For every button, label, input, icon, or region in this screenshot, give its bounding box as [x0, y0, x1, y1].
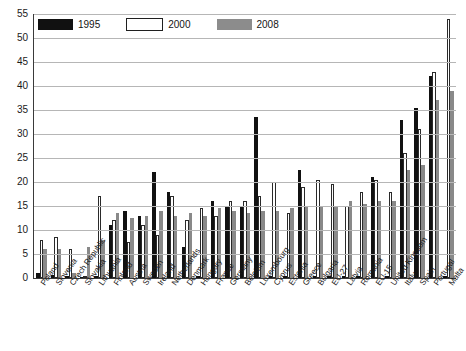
bar-group [400, 14, 411, 278]
gridline [34, 254, 456, 255]
bar-2008 [87, 247, 91, 278]
legend-2000: 2000 [126, 18, 216, 31]
bar-group [225, 14, 236, 278]
bar-2008 [189, 213, 193, 278]
bar-2008 [290, 208, 294, 278]
bar-group [240, 14, 251, 278]
legend-label-2000: 2000 [168, 19, 190, 30]
bar-2008 [130, 218, 134, 278]
bar-group [109, 14, 120, 278]
bar-2008 [261, 211, 265, 278]
gridline [34, 62, 456, 63]
bar-group [283, 14, 294, 278]
y-tick-label: 5 [2, 248, 28, 259]
y-tick-label: 20 [2, 176, 28, 187]
bar-2008 [378, 201, 382, 278]
bar-2008 [247, 213, 251, 278]
bar-group [167, 14, 178, 278]
y-tick-label: 10 [2, 224, 28, 235]
bar-group [211, 14, 222, 278]
bar-group [123, 14, 134, 278]
bar-group [36, 14, 47, 278]
bar-group [313, 14, 324, 278]
y-tick-label: 30 [2, 128, 28, 139]
bar-group [138, 14, 149, 278]
bar-group [414, 14, 425, 278]
plot-area [33, 14, 456, 279]
legend-label-2008: 2008 [257, 19, 279, 30]
bar-group [94, 14, 105, 278]
bar-2008 [203, 216, 207, 278]
bar-group [371, 14, 382, 278]
gridline [34, 86, 456, 87]
gridline [34, 230, 456, 231]
bar-2008 [159, 211, 163, 278]
legend-swatch-2000 [126, 18, 163, 31]
bar-2008 [320, 206, 324, 278]
legend-swatch-2008 [217, 19, 252, 30]
gridline [34, 134, 456, 135]
bar-2008 [436, 100, 440, 278]
y-tick-label: 40 [2, 80, 28, 91]
bar-2008 [145, 216, 149, 278]
bar-group [196, 14, 207, 278]
y-tick-label: 35 [2, 104, 28, 115]
bar-2008 [218, 208, 222, 278]
y-tick-label: 50 [2, 32, 28, 43]
bar-2008 [72, 273, 76, 278]
bar-2008 [101, 240, 105, 278]
gridline [34, 38, 456, 39]
y-tick-label: 0 [2, 272, 28, 283]
bar-group [356, 14, 367, 278]
legend-1995: 1995 [38, 19, 126, 30]
bars-layer [34, 14, 456, 278]
gridline [34, 14, 456, 15]
bar-2008 [232, 211, 236, 278]
gridline [34, 110, 456, 111]
bar-group [182, 14, 193, 278]
bar-group [298, 14, 309, 278]
bar-2008 [174, 216, 178, 278]
bar-group [269, 14, 280, 278]
y-tick-label: 15 [2, 200, 28, 211]
bar-2008 [407, 170, 411, 278]
chart-legend: 199520002008 [38, 17, 305, 31]
legend-swatch-1995 [38, 19, 73, 30]
legend-label-1995: 1995 [78, 19, 100, 30]
bar-group [385, 14, 396, 278]
bar-chart: 0510152025303540455055 PolandSloveniaCze… [0, 0, 466, 351]
gridline [34, 206, 456, 207]
bar-2008 [276, 211, 280, 278]
bar-2008 [450, 91, 454, 278]
bar-2008 [334, 206, 338, 278]
bar-group [152, 14, 163, 278]
bar-group [51, 14, 62, 278]
gridline [34, 182, 456, 183]
bar-group [327, 14, 338, 278]
y-tick-label: 25 [2, 152, 28, 163]
bar-2008 [363, 204, 367, 278]
bar-2008 [116, 213, 120, 278]
y-tick-label: 55 [2, 8, 28, 19]
bar-2008 [349, 201, 353, 278]
bar-group [429, 14, 440, 278]
bar-group [65, 14, 76, 278]
gridline [34, 158, 456, 159]
bar-group [80, 14, 91, 278]
y-tick-label: 45 [2, 56, 28, 67]
bar-group [254, 14, 265, 278]
legend-2008: 2008 [217, 19, 305, 30]
bar-2008 [392, 201, 396, 278]
bar-2008 [305, 206, 309, 278]
bar-group [443, 14, 454, 278]
bar-group [342, 14, 353, 278]
